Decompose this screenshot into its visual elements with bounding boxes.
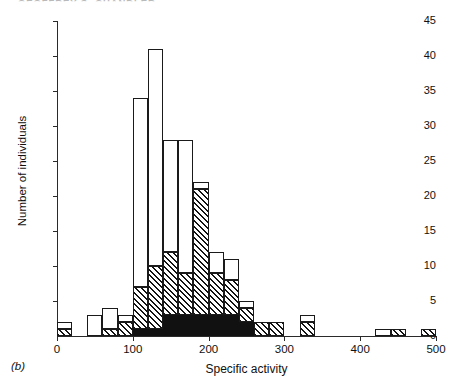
x-axis-line	[57, 336, 436, 337]
bar-segment-black	[209, 315, 224, 336]
bar-segment-hatched	[254, 322, 269, 336]
bar-segment-hatched	[239, 308, 254, 322]
bar-segment-black	[148, 329, 163, 336]
histogram-bar	[421, 329, 436, 336]
bar-segment-hatched	[163, 252, 178, 315]
y-tick	[53, 91, 58, 92]
y-tick-label: 20	[390, 190, 436, 201]
bar-segment-hatched	[421, 329, 436, 336]
x-tick	[436, 336, 437, 341]
bar-segment-white	[300, 315, 315, 322]
histogram-bar	[118, 315, 133, 336]
bar-segment-black	[193, 315, 208, 336]
x-tick-label: 0	[32, 343, 82, 355]
bar-segment-hatched	[224, 280, 239, 315]
bar-segment-hatched	[118, 322, 133, 336]
bar-segment-white	[239, 301, 254, 308]
bar-segment-black	[239, 322, 254, 336]
y-tick	[53, 56, 58, 57]
bar-segment-white	[148, 49, 163, 266]
y-tick	[53, 266, 58, 267]
y-tick-label: 30	[390, 120, 436, 131]
bar-segment-black	[224, 315, 239, 336]
histogram-bar	[254, 322, 269, 336]
histogram-bar	[163, 140, 178, 336]
y-tick-label: 5	[390, 295, 436, 306]
bar-segment-white	[178, 140, 193, 273]
histogram-bar	[102, 308, 117, 336]
histogram-bar	[375, 329, 390, 336]
bar-segment-hatched	[57, 329, 72, 336]
bar-segment-white	[133, 98, 148, 287]
x-tick	[57, 336, 58, 341]
y-tick-label: 25	[390, 155, 436, 166]
y-tick-label: 45	[390, 15, 436, 26]
bar-segment-white	[163, 140, 178, 252]
bar-segment-black	[163, 315, 178, 336]
bar-segment-hatched	[133, 287, 148, 329]
x-tick-label: 400	[335, 343, 385, 355]
panel-label: (b)	[11, 360, 25, 372]
histogram-bar	[224, 259, 239, 336]
y-tick-label: 35	[390, 85, 436, 96]
y-tick	[53, 21, 58, 22]
bar-segment-black	[133, 329, 148, 336]
y-tick-label: 40	[390, 50, 436, 61]
y-tick	[53, 301, 58, 302]
y-tick-label: 10	[390, 260, 436, 271]
y-tick	[53, 196, 58, 197]
x-tick-label: 100	[108, 343, 158, 355]
histogram-bar	[391, 329, 406, 336]
y-tick-label: 15	[390, 225, 436, 236]
y-tick	[53, 231, 58, 232]
bar-segment-black	[178, 315, 193, 336]
y-tick	[53, 126, 58, 127]
histogram-bar	[300, 315, 315, 336]
y-axis-label: Number of individuals	[16, 91, 28, 251]
histogram-bar	[209, 252, 224, 336]
bar-segment-white	[224, 259, 239, 280]
histogram-bar	[178, 140, 193, 336]
bar-segment-hatched	[193, 189, 208, 315]
x-tick	[284, 336, 285, 341]
x-tick	[360, 336, 361, 341]
x-tick	[133, 336, 134, 341]
bar-segment-white	[118, 315, 133, 322]
bar-segment-hatched	[391, 329, 406, 336]
histogram-bar	[193, 182, 208, 336]
bar-segment-white	[193, 182, 208, 189]
x-tick-label: 200	[184, 343, 234, 355]
bar-segment-white	[102, 308, 117, 329]
bar-segment-hatched	[300, 322, 315, 336]
x-tick	[209, 336, 210, 341]
histogram-bar	[133, 98, 148, 336]
histogram-bar	[87, 315, 102, 336]
bar-segment-white	[375, 329, 390, 336]
bar-segment-hatched	[209, 273, 224, 315]
histogram-bar	[57, 322, 72, 336]
bar-segment-white	[87, 315, 102, 336]
histogram-bar	[239, 301, 254, 336]
y-tick	[53, 161, 58, 162]
histogram-bar	[148, 49, 163, 336]
bar-segment-white	[57, 322, 72, 329]
x-tick-label: 300	[259, 343, 309, 355]
bar-segment-hatched	[269, 322, 284, 336]
x-tick-label: 500	[411, 343, 450, 355]
bar-segment-hatched	[102, 329, 117, 336]
x-axis-label: Specific activity	[57, 362, 436, 376]
bar-segment-white	[209, 252, 224, 273]
bar-segment-hatched	[148, 266, 163, 329]
y-axis-line	[57, 21, 58, 337]
bar-segment-hatched	[178, 273, 193, 315]
histogram-bar	[269, 322, 284, 336]
